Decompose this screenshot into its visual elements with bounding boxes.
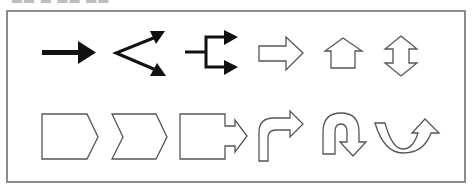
arrow-shapes-diagram: ▬▬ ▬ ▬▬ ▬▬ xyxy=(0,0,474,190)
pentagon-arrow-icon xyxy=(42,114,98,159)
block-up-arrow-icon xyxy=(325,38,362,68)
u-turn-arrow-icon xyxy=(323,113,366,156)
solid-right-arrow-icon xyxy=(42,41,96,64)
bent-arrow-icon xyxy=(259,111,303,161)
diagram-canvas xyxy=(0,0,474,190)
block-up-down-arrow-icon xyxy=(385,36,417,76)
curved-up-arrow-icon xyxy=(375,119,439,153)
branching-arrows-icon xyxy=(185,30,238,75)
chevron-arrow-icon xyxy=(112,114,167,159)
block-right-arrow-icon xyxy=(259,37,303,70)
callout-right-arrow-icon xyxy=(180,114,247,159)
diverging-arrows-icon xyxy=(116,31,166,76)
